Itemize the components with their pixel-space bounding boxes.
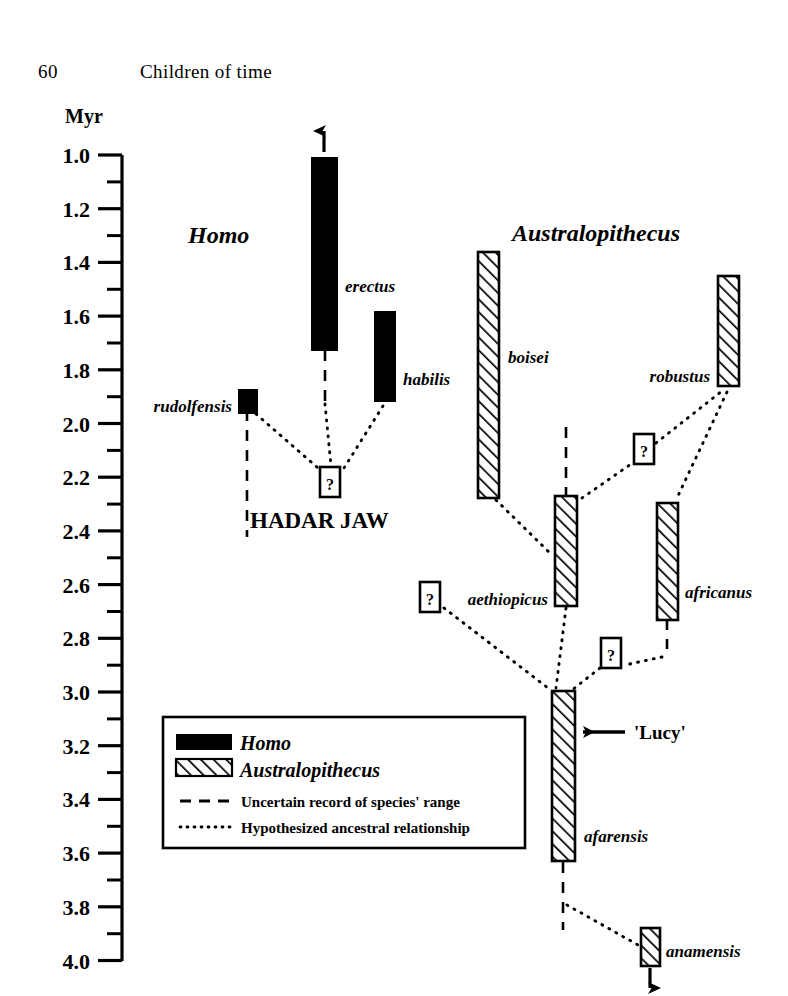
species-label-erectus: erectus (345, 277, 395, 296)
annotation-hadar-jaw: HADAR JAW (250, 508, 389, 533)
hominin-phylogeny-chart: 60 Children of time Myr (0, 0, 788, 996)
tick-label: 3.4 (63, 787, 91, 812)
legend-label-australopithecus: Australopithecus (238, 759, 380, 782)
tick-label: 3.8 (63, 895, 91, 920)
legend-label-homo: Homo (239, 732, 291, 754)
tick-label: 1.6 (63, 304, 91, 329)
page-number: 60 (38, 61, 58, 82)
qnode-hadar[interactable]: ? (320, 467, 340, 497)
species-label-afarensis: afarensis (584, 827, 649, 846)
species-label-rudolfensis: rudolfensis (154, 397, 233, 416)
legend-label-uncertain-range: Uncertain record of species' range (241, 794, 460, 810)
qnode-africanus[interactable]: ? (601, 638, 621, 668)
question-mark-icon: ? (640, 443, 648, 460)
tick-label: 4.0 (63, 949, 91, 974)
tick-label: 2.8 (63, 626, 91, 651)
legend: Homo Australopithecus Uncertain record o… (163, 717, 525, 848)
axis-unit-label: Myr (65, 105, 103, 128)
qnode-robustus[interactable]: ? (634, 434, 654, 464)
running-head-title: Children of time (140, 61, 272, 82)
bar-robustus[interactable] (718, 276, 739, 386)
bar-aethiopicus[interactable] (555, 496, 577, 606)
species-label-robustus: robustus (650, 367, 711, 386)
tick-label: 2.0 (63, 412, 91, 437)
bar-afarensis[interactable] (552, 691, 575, 861)
legend-swatch-homo (176, 734, 232, 750)
tick-label: 1.0 (63, 143, 91, 168)
figure-root: 60 Children of time Myr (0, 0, 788, 996)
genus-title-australopithecus: Australopithecus (510, 220, 680, 246)
species-label-boisei: boisei (508, 348, 549, 367)
bar-africanus[interactable] (657, 503, 678, 620)
species-label-habilis: habilis (403, 370, 451, 389)
tick-label: 3.6 (63, 841, 91, 866)
qnode-aethiopicus[interactable]: ? (420, 582, 440, 612)
question-mark-icon: ? (607, 647, 615, 664)
species-label-africanus: africanus (685, 583, 752, 602)
bar-boisei[interactable] (478, 252, 499, 498)
tick-label: 1.4 (63, 250, 91, 275)
tick-label: 2.2 (63, 465, 91, 490)
annotation-lucy-label: 'Lucy' (634, 722, 686, 743)
bar-rudolfensis[interactable] (238, 389, 258, 414)
genus-title-homo: Homo (187, 222, 249, 248)
bar-habilis[interactable] (374, 311, 396, 402)
species-label-aethiopicus: aethiopicus (468, 590, 549, 609)
tick-label: 2.4 (63, 519, 91, 544)
species-label-anamensis: anamensis (666, 942, 741, 961)
tick-label: 1.2 (63, 197, 91, 222)
question-mark-icon: ? (426, 591, 434, 608)
tick-label: 3.2 (63, 734, 91, 759)
question-mark-icon: ? (326, 476, 334, 493)
legend-swatch-australopithecus (176, 759, 232, 776)
bar-erectus[interactable] (311, 131, 338, 351)
tick-label: 3.0 (63, 680, 91, 705)
tick-label: 1.8 (63, 358, 91, 383)
legend-label-ancestry: Hypothesized ancestral relationship (241, 820, 470, 836)
tick-label: 2.6 (63, 573, 91, 598)
